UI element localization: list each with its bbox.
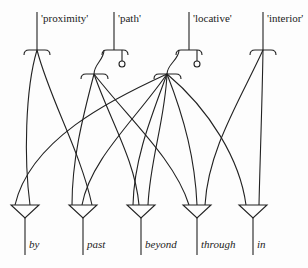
label-beyond: beyond <box>145 238 177 250</box>
locative-connector <box>167 50 179 74</box>
node-past: past <box>69 205 106 255</box>
label-past: past <box>86 238 106 250</box>
label-in: in <box>257 238 266 250</box>
empty-option-circle-path <box>119 61 125 67</box>
node-path: 'path' <box>81 12 141 79</box>
node-in: in <box>239 205 267 255</box>
empty-option-circle-locative <box>194 61 200 67</box>
or-triangle-by <box>11 205 39 218</box>
node-by: by <box>11 205 40 255</box>
preposition-network-diagram: 'proximity' 'path' 'locative' 'interior' <box>0 0 308 268</box>
or-triangle-through <box>183 205 211 218</box>
label-locative: 'locative' <box>193 12 232 24</box>
label-path: 'path' <box>118 12 141 24</box>
or-bracket-path-upper <box>102 50 128 55</box>
label-proximity: 'proximity' <box>41 12 88 24</box>
node-locative: 'locative' <box>154 12 232 79</box>
or-triangle-past <box>69 205 97 218</box>
node-proximity: 'proximity' <box>24 12 88 55</box>
node-beyond: beyond <box>127 205 177 255</box>
label-interior: 'interior' <box>267 12 303 24</box>
or-triangle-in <box>239 205 267 218</box>
node-through: through <box>183 205 236 255</box>
node-interior: 'interior' <box>250 12 303 55</box>
or-bracket-locative-upper <box>176 50 202 55</box>
label-through: through <box>201 238 236 250</box>
connection-lines <box>15 50 263 205</box>
label-by: by <box>29 238 40 250</box>
or-triangle-beyond <box>127 205 155 218</box>
